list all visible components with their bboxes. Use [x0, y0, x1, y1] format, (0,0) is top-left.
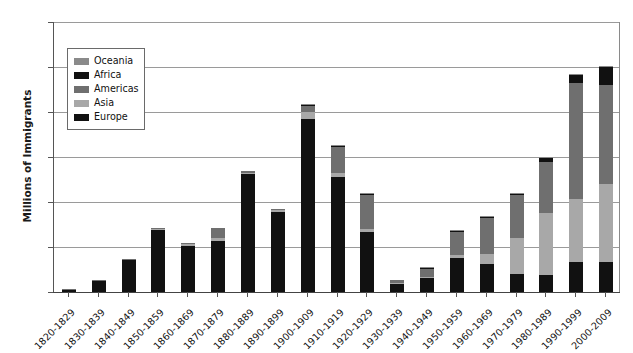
bar-segment-europe — [599, 262, 613, 292]
bar[interactable] — [151, 228, 165, 292]
bar-segment-europe — [211, 241, 225, 292]
gridline — [54, 22, 619, 23]
bar[interactable] — [390, 280, 404, 292]
legend-item-europe[interactable]: Europe — [74, 110, 138, 124]
bar[interactable] — [599, 66, 613, 292]
x-tick-mark — [575, 292, 576, 297]
bar-segment-americas — [569, 83, 583, 199]
y-tick-mark — [48, 157, 53, 158]
bar-segment-asia — [599, 184, 613, 262]
bar[interactable] — [122, 259, 136, 292]
x-tick-mark — [217, 292, 218, 297]
legend-item-africa[interactable]: Africa — [74, 68, 138, 82]
bar-segment-americas — [420, 269, 434, 277]
x-tick-mark — [157, 292, 158, 297]
bar-segment-europe — [390, 284, 404, 292]
bar[interactable] — [480, 216, 494, 292]
x-tick-mark — [366, 292, 367, 297]
bar-segment-europe — [450, 258, 464, 292]
bar[interactable] — [301, 104, 315, 292]
bar[interactable] — [241, 171, 255, 292]
legend-swatch-icon — [74, 58, 89, 65]
y-tick-mark — [48, 67, 53, 68]
bar-segment-europe — [480, 264, 494, 292]
bar[interactable] — [92, 280, 106, 292]
x-tick-mark — [486, 292, 487, 297]
x-tick-mark — [247, 292, 248, 297]
bar-segment-asia — [569, 199, 583, 262]
legend-item-asia[interactable]: Asia — [74, 96, 138, 110]
bar-segment-americas — [599, 85, 613, 184]
bar-segment-europe — [360, 232, 374, 292]
bar[interactable] — [360, 193, 374, 292]
x-tick-mark — [307, 292, 308, 297]
bar-segment-europe — [301, 119, 315, 292]
bar-segment-americas — [510, 195, 524, 238]
bar-segment-asia — [539, 213, 553, 275]
x-tick-mark — [68, 292, 69, 297]
legend-label: Americas — [94, 84, 139, 94]
bar[interactable] — [539, 157, 553, 292]
bar[interactable] — [450, 230, 464, 292]
bar-segment-americas — [360, 195, 374, 229]
bar-segment-americas — [480, 218, 494, 255]
x-tick-mark — [128, 292, 129, 297]
x-tick-mark — [187, 292, 188, 297]
x-tick-mark — [456, 292, 457, 297]
bar[interactable] — [331, 145, 345, 292]
bar-segment-europe — [181, 246, 195, 292]
bar[interactable] — [181, 243, 195, 292]
bar-segment-americas — [331, 147, 345, 173]
legend-swatch-icon — [74, 86, 89, 93]
x-tick-mark — [277, 292, 278, 297]
x-tick-mark — [98, 292, 99, 297]
bar-segment-europe — [151, 230, 165, 292]
legend-label: Oceania — [94, 56, 133, 66]
y-axis-title: Millions of Immigrants — [21, 76, 33, 236]
legend-item-oceania[interactable]: Oceania — [74, 54, 138, 68]
bar-segment-asia — [480, 254, 494, 264]
y-tick-mark — [48, 247, 53, 248]
legend-label: Africa — [94, 70, 121, 80]
bar-segment-europe — [241, 174, 255, 292]
bar-segment-americas — [539, 162, 553, 213]
x-tick-mark — [545, 292, 546, 297]
bar-segment-africa — [599, 67, 613, 85]
y-tick-mark — [48, 112, 53, 113]
legend-swatch-icon — [74, 114, 89, 121]
bar[interactable] — [211, 228, 225, 292]
bar-segment-europe — [510, 274, 524, 292]
y-tick-mark — [48, 22, 53, 23]
bar-segment-americas — [211, 228, 225, 238]
bar[interactable] — [569, 74, 583, 292]
bar-segment-americas — [450, 232, 464, 255]
legend-swatch-icon — [74, 100, 89, 107]
bar[interactable] — [271, 209, 285, 292]
x-tick-mark — [516, 292, 517, 297]
legend-rows: OceaniaAfricaAmericasAsiaEurope — [74, 54, 138, 124]
bar-segment-europe — [92, 281, 106, 292]
bar[interactable] — [510, 193, 524, 292]
bar-segment-asia — [510, 238, 524, 274]
bar-segment-europe — [271, 212, 285, 292]
legend-label: Europe — [94, 112, 128, 122]
bar-segment-europe — [569, 262, 583, 292]
x-tick-mark — [426, 292, 427, 297]
bar-segment-europe — [331, 177, 345, 292]
legend: OceaniaAfricaAmericasAsiaEurope — [67, 48, 145, 130]
legend-swatch-icon — [74, 72, 89, 79]
x-tick-mark — [396, 292, 397, 297]
bar-segment-africa — [569, 75, 583, 83]
y-tick-mark — [48, 292, 53, 293]
y-tick-mark — [48, 202, 53, 203]
bar-segment-europe — [420, 278, 434, 292]
bar[interactable] — [420, 267, 434, 292]
bar-segment-europe — [539, 275, 553, 292]
x-tick-mark — [605, 292, 606, 297]
legend-item-americas[interactable]: Americas — [74, 82, 138, 96]
legend-label: Asia — [94, 98, 114, 108]
bar-segment-europe — [122, 260, 136, 292]
x-tick-mark — [337, 292, 338, 297]
